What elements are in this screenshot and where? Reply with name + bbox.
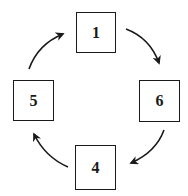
node-4-label: 4 bbox=[92, 160, 100, 176]
arrow-1-to-6 bbox=[126, 29, 159, 63]
arrow-6-to-4 bbox=[131, 130, 164, 163]
node-1: 1 bbox=[76, 12, 116, 53]
node-4: 4 bbox=[75, 145, 116, 190]
node-6: 6 bbox=[139, 80, 180, 122]
node-1-label: 1 bbox=[92, 25, 100, 41]
arrow-5-to-1 bbox=[29, 34, 63, 69]
arrow-4-to-5 bbox=[34, 134, 68, 167]
cycle-diagram: 1 6 4 5 bbox=[0, 0, 188, 196]
node-6-label: 6 bbox=[156, 93, 164, 109]
node-5-label: 5 bbox=[30, 93, 38, 109]
node-5: 5 bbox=[13, 80, 54, 121]
